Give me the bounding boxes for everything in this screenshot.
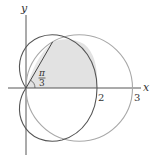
polar-diagram: y x 2 3 π 3 bbox=[0, 0, 156, 165]
y-axis-label: y bbox=[20, 2, 28, 15]
angle-denominator: 3 bbox=[39, 78, 45, 88]
angle-numerator: π bbox=[38, 68, 46, 78]
x-axis-label: x bbox=[143, 81, 150, 94]
x-tick-2: 2 bbox=[98, 92, 104, 103]
x-tick-3: 3 bbox=[134, 92, 140, 103]
